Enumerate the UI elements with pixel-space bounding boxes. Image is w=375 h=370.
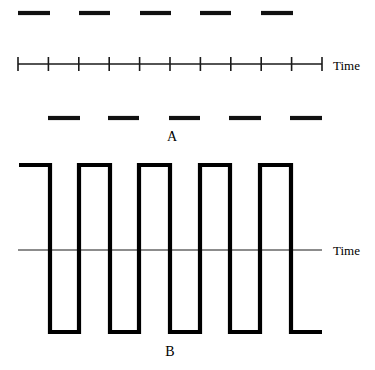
timing-diagram-figure: Time A Time B	[0, 0, 375, 370]
time-axis-label-bottom: Time	[333, 243, 360, 258]
panel-label-a: A	[167, 129, 178, 144]
figure-background	[0, 0, 375, 370]
time-axis-label-top: Time	[333, 58, 360, 73]
timing-diagram-canvas: Time A Time B	[0, 0, 375, 370]
panel-label-b: B	[165, 344, 174, 359]
